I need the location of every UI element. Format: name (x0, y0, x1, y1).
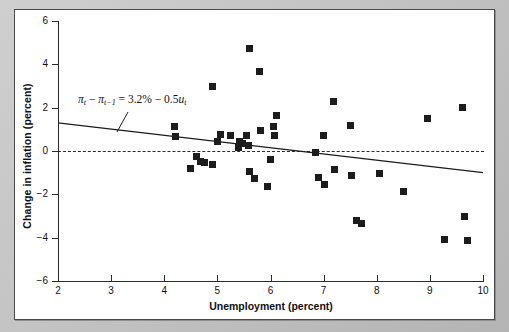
scatter-point (209, 161, 216, 168)
x-axis-label: Unemployment (percent) (58, 300, 484, 312)
scatter-point (376, 170, 383, 177)
x-axis-tick-label: 6 (261, 285, 281, 296)
scatter-point (330, 98, 337, 105)
scatter-point (348, 172, 355, 179)
x-axis-tick-label: 9 (420, 285, 440, 296)
scatter-point (270, 123, 277, 130)
y-axis-tick-label: 2 (26, 103, 48, 113)
y-axis-tick (52, 21, 59, 22)
x-axis-tick (111, 275, 112, 282)
scatter-point (267, 156, 274, 163)
x-axis-tick-label: 3 (101, 285, 121, 296)
scatter-point (245, 142, 252, 149)
x-axis-tick-label: 5 (207, 285, 227, 296)
scatter-point (187, 165, 194, 172)
scatter-point (217, 131, 224, 138)
scatter-point (243, 132, 250, 139)
x-axis-tick (164, 275, 165, 282)
scatter-point (358, 220, 365, 227)
figure-background: πt − πt−1 = 3.2% − 0.5ut Change in infla… (0, 0, 509, 332)
y-axis-tick (52, 64, 59, 65)
scatter-point (331, 166, 338, 173)
scatter-point (312, 149, 319, 156)
scatter-point (264, 183, 271, 190)
scatter-point (271, 132, 278, 139)
y-axis-tick (52, 108, 59, 109)
y-axis-tick-label: −4 (26, 233, 48, 243)
scatter-point (171, 123, 178, 130)
scatter-point (273, 112, 280, 119)
x-axis-tick (324, 275, 325, 282)
scatter-point (400, 188, 407, 195)
scatter-point (246, 45, 253, 52)
scatter-point (461, 213, 468, 220)
y-axis-tick (52, 194, 59, 195)
zero-reference-line (58, 151, 484, 152)
x-axis-tick (430, 275, 431, 282)
scatter-point (251, 175, 258, 182)
x-axis-tick (217, 275, 218, 282)
y-axis-tick-label: −2 (26, 189, 48, 199)
y-axis-tick (52, 151, 59, 152)
scatter-point (321, 181, 328, 188)
x-axis-tick-label: 2 (48, 285, 68, 296)
x-axis-tick (58, 275, 59, 282)
scatter-point (459, 104, 466, 111)
scatter-point (441, 236, 448, 243)
scatter-point (214, 138, 221, 145)
regression-line (0, 0, 509, 332)
scatter-point (201, 159, 208, 166)
y-axis-tick-label: 4 (26, 59, 48, 69)
scatter-point (257, 127, 264, 134)
scatter-point (227, 132, 234, 139)
x-axis-tick-label: 7 (314, 285, 334, 296)
scatter-point (320, 132, 327, 139)
x-axis-tick (377, 275, 378, 282)
x-axis-tick-label: 8 (367, 285, 387, 296)
scatter-point (209, 83, 216, 90)
plot-area: πt − πt−1 = 3.2% − 0.5ut Change in infla… (0, 0, 509, 332)
y-axis-tick-label: 0 (26, 146, 48, 156)
y-axis-tick-label: 6 (26, 16, 48, 26)
scatter-point (172, 133, 179, 140)
scatter-point (464, 237, 471, 244)
scatter-point (315, 174, 322, 181)
x-axis-tick (271, 275, 272, 282)
scatter-point (256, 68, 263, 75)
x-axis-tick-label: 10 (473, 285, 493, 296)
regression-equation-annotation: πt − πt−1 = 3.2% − 0.5ut (78, 93, 186, 107)
y-axis-label: Change in inflation (percent) (21, 66, 33, 246)
scatter-point (424, 115, 431, 122)
scatter-point (347, 122, 354, 129)
y-axis-tick (52, 238, 59, 239)
x-axis-tick-label: 4 (154, 285, 174, 296)
x-axis-tick (483, 275, 484, 282)
y-axis-tick-label: −6 (26, 276, 48, 286)
